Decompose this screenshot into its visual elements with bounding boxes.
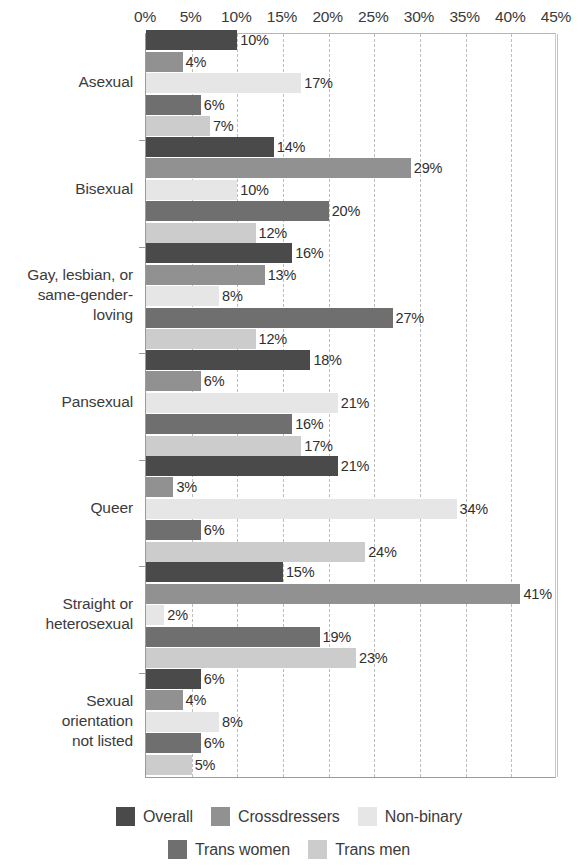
bar bbox=[146, 520, 201, 540]
group-separator-tick bbox=[139, 140, 146, 141]
bar bbox=[146, 542, 365, 562]
bar bbox=[146, 690, 183, 710]
bar-value-label: 4% bbox=[186, 54, 207, 70]
bar bbox=[146, 712, 219, 732]
category-label-line: Gay, lesbian, or bbox=[0, 265, 133, 285]
bar bbox=[146, 733, 201, 753]
bar-value-label: 8% bbox=[222, 714, 243, 730]
bar-value-label: 29% bbox=[414, 160, 442, 176]
x-axis-tick-label: 20% bbox=[312, 8, 342, 26]
bar-value-label: 12% bbox=[259, 331, 287, 347]
legend-swatch-icon bbox=[116, 807, 135, 826]
grouped-bar-chart: 0%5%10%15%20%25%30%35%40%45% AsexualBise… bbox=[0, 0, 578, 866]
bar bbox=[146, 52, 183, 72]
legend-label: Non-binary bbox=[385, 808, 462, 826]
gridline bbox=[466, 34, 467, 777]
bar-value-label: 6% bbox=[204, 97, 225, 113]
bar-value-label: 6% bbox=[204, 373, 225, 389]
bar bbox=[146, 584, 520, 604]
bar-value-label: 21% bbox=[341, 458, 369, 474]
bar bbox=[146, 286, 219, 306]
bar-value-label: 5% bbox=[195, 757, 216, 773]
legend-item[interactable]: Non-binary bbox=[358, 807, 462, 826]
legend-label: Trans men bbox=[335, 841, 410, 859]
bar bbox=[146, 308, 393, 328]
bar bbox=[146, 265, 265, 285]
bar-value-label: 8% bbox=[222, 288, 243, 304]
x-axis-tick-label: 30% bbox=[404, 8, 434, 26]
plot-area: 10%4%17%6%7%14%29%10%20%12%16%13%8%27%12… bbox=[145, 33, 556, 778]
category-label: Asexual bbox=[0, 72, 133, 92]
bar bbox=[146, 562, 283, 582]
x-axis-tick-label: 0% bbox=[134, 8, 156, 26]
bar-value-label: 19% bbox=[323, 629, 351, 645]
bar-value-label: 2% bbox=[167, 607, 188, 623]
x-axis-tick-label: 5% bbox=[180, 8, 202, 26]
x-axis-tick-label: 40% bbox=[495, 8, 525, 26]
bar-value-label: 12% bbox=[259, 225, 287, 241]
bar-value-label: 14% bbox=[277, 139, 305, 155]
legend-item[interactable]: Trans women bbox=[168, 840, 290, 859]
x-axis-tick-label: 10% bbox=[221, 8, 251, 26]
category-label-line: orientation bbox=[0, 711, 133, 731]
bar bbox=[146, 436, 301, 456]
bar-value-label: 15% bbox=[286, 564, 314, 580]
category-label: Queer bbox=[0, 498, 133, 518]
group-separator-tick bbox=[139, 460, 146, 461]
bar bbox=[146, 371, 201, 391]
legend-item[interactable]: Overall bbox=[116, 807, 193, 826]
group-separator-tick bbox=[139, 353, 146, 354]
bar bbox=[146, 755, 192, 775]
bar-value-label: 18% bbox=[313, 352, 341, 368]
bar bbox=[146, 648, 356, 668]
legend-label: Overall bbox=[143, 808, 193, 826]
bar bbox=[146, 477, 173, 497]
x-axis-tick-labels: 0%5%10%15%20%25%30%35%40%45% bbox=[0, 8, 578, 30]
x-axis-tick-label: 35% bbox=[449, 8, 479, 26]
bar bbox=[146, 329, 256, 349]
legend-item[interactable]: Crossdressers bbox=[211, 807, 340, 826]
bar-value-label: 20% bbox=[332, 203, 360, 219]
category-label-line: Bisexual bbox=[0, 179, 133, 199]
category-label-line: Pansexual bbox=[0, 392, 133, 412]
bar-value-label: 6% bbox=[204, 522, 225, 538]
x-axis-tick-label: 45% bbox=[541, 8, 571, 26]
category-label: Straight orheterosexual bbox=[0, 594, 133, 634]
bar-value-label: 6% bbox=[204, 735, 225, 751]
bar-value-label: 10% bbox=[240, 182, 268, 198]
category-label: Sexualorientationnot listed bbox=[0, 691, 133, 751]
bar-value-label: 3% bbox=[176, 479, 197, 495]
bar bbox=[146, 393, 338, 413]
group-separator-tick bbox=[139, 247, 146, 248]
bar bbox=[146, 414, 292, 434]
chart-legend: OverallCrossdressersNon-binaryTrans wome… bbox=[0, 800, 578, 866]
bar bbox=[146, 201, 329, 221]
bar-value-label: 27% bbox=[396, 310, 424, 326]
bar bbox=[146, 669, 201, 689]
category-label: Bisexual bbox=[0, 179, 133, 199]
legend-item[interactable]: Trans men bbox=[308, 840, 410, 859]
bar-value-label: 17% bbox=[304, 438, 332, 454]
category-label: Pansexual bbox=[0, 392, 133, 412]
legend-swatch-icon bbox=[168, 840, 187, 859]
bar-value-label: 34% bbox=[460, 501, 488, 517]
legend-row: OverallCrossdressersNon-binary bbox=[0, 800, 578, 833]
bar-value-label: 10% bbox=[240, 32, 268, 48]
category-label: Gay, lesbian, orsame-gender-loving bbox=[0, 265, 133, 325]
bar bbox=[146, 499, 457, 519]
legend-swatch-icon bbox=[358, 807, 377, 826]
legend-row: Trans womenTrans men bbox=[0, 833, 578, 866]
category-label-line: Sexual bbox=[0, 691, 133, 711]
bar-value-label: 6% bbox=[204, 671, 225, 687]
bar-value-label: 24% bbox=[368, 544, 396, 560]
bar-value-label: 41% bbox=[523, 586, 551, 602]
x-axis-tick-label: 25% bbox=[358, 8, 388, 26]
bar bbox=[146, 73, 301, 93]
category-label-line: not listed bbox=[0, 731, 133, 751]
bar bbox=[146, 350, 310, 370]
gridline bbox=[557, 34, 558, 777]
bar-value-label: 17% bbox=[304, 75, 332, 91]
bar bbox=[146, 605, 164, 625]
bar bbox=[146, 137, 274, 157]
legend-swatch-icon bbox=[308, 840, 327, 859]
